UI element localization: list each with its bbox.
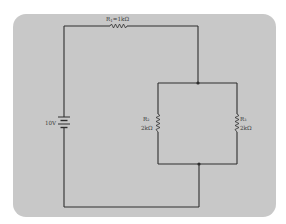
resistor-r2-label: R₂: [143, 116, 149, 122]
junction-bottom-node: [197, 162, 200, 165]
resistor-r2-icon: [156, 114, 160, 132]
battery-voltage-label: 10V: [45, 120, 57, 126]
battery-icon: [58, 117, 70, 128]
circuit-diagram: R1=1kΩ R₂ 2kΩ R₃ 2kΩ 10V: [0, 0, 286, 224]
wires: [64, 26, 237, 207]
resistor-r3-icon: [235, 114, 239, 132]
resistor-r1-label: R1=1kΩ: [106, 16, 129, 23]
resistor-r3-label: R₃: [240, 116, 246, 122]
junction-top-node: [196, 81, 199, 84]
resistor-r1-icon: [110, 24, 127, 28]
resistor-r2-value: 2kΩ: [141, 125, 153, 131]
resistor-r3-value: 2kΩ: [240, 125, 252, 131]
